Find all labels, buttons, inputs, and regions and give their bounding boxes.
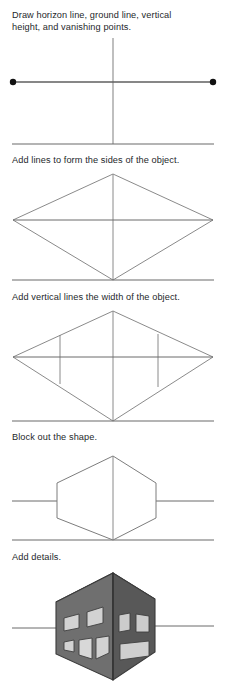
window-left-lower-1 bbox=[64, 640, 74, 652]
step-3-diagram bbox=[0, 305, 226, 423]
line-rvp-to-apex-bottom bbox=[113, 357, 213, 421]
step-5-diagram bbox=[0, 562, 226, 694]
step-4-caption: Block out the shape. bbox=[12, 432, 97, 444]
step-2-diagram bbox=[0, 168, 226, 284]
step-2-caption: Add lines to form the sides of the objec… bbox=[12, 155, 179, 167]
left-vanishing-point bbox=[10, 79, 16, 85]
line-rvp-to-apex-bottom bbox=[113, 220, 213, 280]
building-door bbox=[79, 638, 92, 659]
right-vanishing-point bbox=[210, 79, 216, 85]
line-lvp-to-apex-top bbox=[13, 311, 113, 357]
blocked-shape-outline bbox=[57, 456, 156, 540]
step-4-diagram bbox=[0, 448, 226, 545]
step-1-diagram bbox=[0, 30, 226, 148]
window-right-upper-1 bbox=[119, 613, 130, 632]
line-lvp-to-apex-bottom bbox=[13, 357, 113, 421]
line-lvp-to-apex-top bbox=[13, 174, 113, 220]
step-3-caption: Add vertical lines the width of the obje… bbox=[12, 292, 180, 304]
window-right-upper-2 bbox=[136, 614, 149, 632]
perspective-tutorial: Draw horizon line, ground line, vertical… bbox=[0, 0, 226, 698]
line-rvp-to-apex-top bbox=[113, 311, 213, 357]
line-lvp-to-apex-bottom bbox=[13, 220, 113, 280]
line-rvp-to-apex-top bbox=[113, 174, 213, 220]
